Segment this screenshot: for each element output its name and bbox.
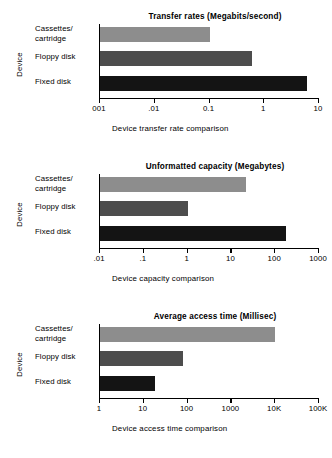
x-axis-tick-label: .01 — [93, 254, 104, 263]
x-axis-tick — [143, 398, 144, 403]
x-axis-tick — [318, 98, 319, 103]
bar-cassettes — [100, 27, 210, 42]
x-axis-tick-label: 0.1 — [203, 104, 214, 113]
x-axis-tick-label: 1 — [97, 404, 101, 413]
x-axis-tick — [274, 248, 275, 253]
x-axis-tick-label: 10 — [226, 254, 235, 263]
x-axis-label: Device capacity comparison — [112, 274, 214, 283]
x-axis-tick — [230, 398, 231, 403]
category-label-fixed: Fixed disk — [35, 227, 95, 237]
x-axis-tick — [318, 398, 319, 403]
plot-area: 001.010.1110 — [99, 24, 318, 98]
x-axis-tick — [318, 248, 319, 253]
x-axis-tick-label: 10 — [138, 404, 147, 413]
category-label-cassettes: Cassettes/ cartridge — [35, 174, 95, 193]
bar-fixed — [100, 226, 286, 241]
plot-area: .01.11101001000 — [99, 174, 318, 248]
x-axis-tick-label: 1 — [184, 254, 188, 263]
bar-floppy — [100, 351, 183, 366]
x-axis-line — [99, 398, 318, 399]
x-axis-tick-label: .1 — [139, 254, 146, 263]
x-axis-label: Device transfer rate comparison — [112, 124, 228, 133]
bar-cassettes — [100, 327, 275, 342]
chart-average-access-time: Average access time (Millisec) Device Ca… — [0, 302, 332, 452]
x-axis-tick — [230, 248, 231, 253]
x-axis-tick-label: 10 — [314, 104, 323, 113]
x-axis-tick — [154, 98, 155, 103]
bar-floppy — [100, 51, 252, 66]
x-axis-label: Device access time comparison — [112, 424, 227, 433]
x-axis-line — [99, 248, 318, 249]
category-label-cassettes: Cassettes/ cartridge — [35, 24, 95, 43]
chart-transfer-rates: Transfer rates (Megabits/second) Device … — [0, 2, 332, 152]
y-axis-label: Device — [15, 186, 24, 244]
chart-unformatted-capacity: Unformatted capacity (Megabytes) Device … — [0, 152, 332, 302]
x-axis-tick — [209, 98, 210, 103]
x-axis-tick — [143, 248, 144, 253]
category-labels: Cassettes/ cartridge Floppy disk Fixed d… — [35, 324, 95, 398]
y-axis-label: Device — [15, 336, 24, 394]
x-axis-tick — [274, 398, 275, 403]
x-axis-tick — [99, 398, 100, 403]
chart-title: Unformatted capacity (Megabytes) — [104, 162, 326, 171]
x-axis-tick — [263, 98, 264, 103]
bar-fixed — [100, 376, 155, 391]
bar-cassettes — [100, 177, 246, 192]
x-axis-tick-label: 100K — [309, 404, 328, 413]
x-axis-tick-label: 100 — [180, 404, 193, 413]
plot-area: 110100100010K100K — [99, 324, 318, 398]
x-axis-tick — [187, 398, 188, 403]
x-axis-tick-label: 1000 — [309, 254, 327, 263]
category-labels: Cassettes/ cartridge Floppy disk Fixed d… — [35, 24, 95, 98]
x-axis-tick-label: 1000 — [222, 404, 240, 413]
bar-fixed — [100, 76, 307, 91]
x-axis-tick — [99, 98, 100, 103]
category-label-floppy: Floppy disk — [35, 52, 95, 62]
x-axis-tick — [187, 248, 188, 253]
category-label-cassettes: Cassettes/ cartridge — [35, 324, 95, 343]
chart-title: Transfer rates (Megabits/second) — [104, 12, 326, 21]
category-labels: Cassettes/ cartridge Floppy disk Fixed d… — [35, 174, 95, 248]
category-label-floppy: Floppy disk — [35, 352, 95, 362]
chart-title: Average access time (Millisec) — [104, 312, 326, 321]
category-label-fixed: Fixed disk — [35, 377, 95, 387]
bar-floppy — [100, 201, 188, 216]
x-axis-tick-label: 10K — [267, 404, 281, 413]
x-axis-tick-label: 1 — [261, 104, 265, 113]
x-axis-tick-label: 001 — [92, 104, 105, 113]
x-axis-tick-label: 100 — [268, 254, 281, 263]
x-axis-tick-label: .01 — [148, 104, 159, 113]
x-axis-tick — [99, 248, 100, 253]
y-axis-label: Device — [15, 36, 24, 94]
category-label-fixed: Fixed disk — [35, 77, 95, 87]
category-label-floppy: Floppy disk — [35, 202, 95, 212]
